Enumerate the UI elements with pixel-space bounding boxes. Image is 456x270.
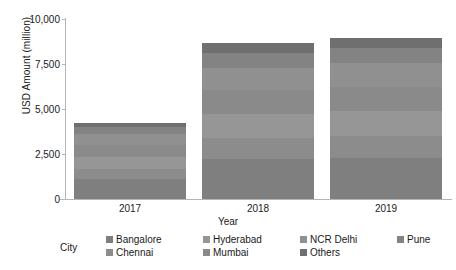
legend-item[interactable]: Chennai (106, 247, 203, 258)
x-tick-label: 2018 (218, 203, 298, 214)
legend-title: City (60, 233, 106, 253)
legend-label: Mumbai (213, 247, 249, 258)
legend-entries: BangaloreHyderabadNCR DelhiPuneChennaiMu… (106, 233, 456, 259)
bar-segment[interactable] (202, 68, 314, 91)
legend-swatch-icon (397, 236, 404, 243)
stacked-bar-chart: USD Amount (million) 02,5005,0007,50010,… (0, 0, 456, 270)
bar-segment[interactable] (330, 87, 442, 111)
bar-segment[interactable] (74, 145, 186, 157)
bar-segment[interactable] (202, 90, 314, 113)
y-tick-label: 10,000 (0, 14, 60, 25)
bar-segment[interactable] (330, 48, 442, 63)
y-tick-label: 0 (0, 194, 60, 205)
legend-item[interactable]: Mumbai (203, 247, 300, 258)
bar-segment[interactable] (330, 63, 442, 86)
legend-swatch-icon (300, 236, 307, 243)
bar-segment[interactable] (74, 123, 186, 127)
legend-item[interactable]: Bangalore (106, 234, 203, 245)
bar-segment[interactable] (330, 158, 442, 199)
bar-segment[interactable] (330, 136, 442, 158)
x-tick-label: 2019 (346, 203, 426, 214)
y-tick-label: 2,500 (0, 149, 60, 160)
legend-label: Bangalore (116, 234, 162, 245)
stacked-bar[interactable] (74, 123, 186, 199)
plot-area (66, 19, 450, 199)
legend-item[interactable]: Hyderabad (203, 234, 300, 245)
x-axis-line (60, 199, 452, 200)
legend-swatch-icon (300, 249, 307, 256)
legend-swatch-icon (106, 236, 113, 243)
legend: City BangaloreHyderabadNCR DelhiPuneChen… (60, 233, 456, 259)
bar-segment[interactable] (74, 169, 186, 179)
stacked-bar[interactable] (202, 43, 314, 199)
legend-swatch-icon (106, 249, 113, 256)
legend-label: NCR Delhi (310, 234, 357, 245)
bar-group[interactable] (202, 19, 314, 199)
legend-label: Pune (407, 234, 430, 245)
y-tick-mark (62, 199, 66, 200)
x-tick-label: 2017 (90, 203, 170, 214)
bar-segment[interactable] (74, 179, 186, 199)
stacked-bar[interactable] (330, 38, 442, 199)
legend-label: Hyderabad (213, 234, 262, 245)
bar-segment[interactable] (202, 159, 314, 200)
legend-label: Chennai (116, 247, 153, 258)
y-tick-label: 5,000 (0, 104, 60, 115)
legend-item[interactable]: Pune (397, 234, 456, 245)
legend-item[interactable]: Others (300, 247, 397, 258)
bar-group[interactable] (330, 19, 442, 199)
legend-item[interactable]: NCR Delhi (300, 234, 397, 245)
legend-label: Others (310, 247, 340, 258)
bar-segment[interactable] (202, 138, 314, 159)
bar-segment[interactable] (202, 43, 314, 53)
bar-segment[interactable] (202, 53, 314, 67)
y-tick-label: 7,500 (0, 59, 60, 70)
bar-segment[interactable] (202, 114, 314, 138)
bar-segment[interactable] (330, 111, 442, 136)
x-axis-title: Year (0, 216, 456, 227)
bar-segment[interactable] (74, 157, 186, 170)
bar-segment[interactable] (330, 38, 442, 48)
legend-swatch-icon (203, 249, 210, 256)
bar-group[interactable] (74, 19, 186, 199)
bar-segment[interactable] (74, 127, 186, 134)
bar-segment[interactable] (74, 134, 186, 145)
legend-swatch-icon (203, 236, 210, 243)
